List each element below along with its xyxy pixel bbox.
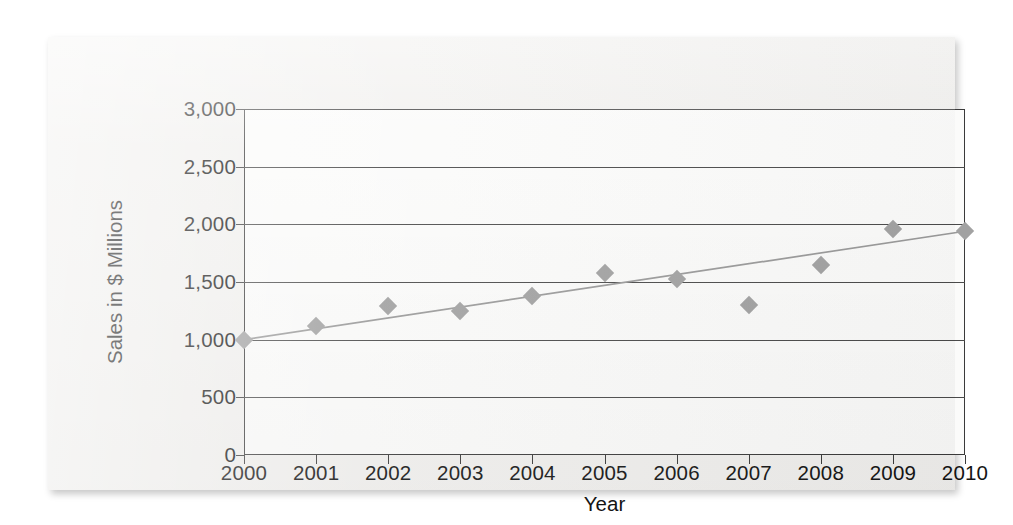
- x-axis-tick-labels: 2000200120022003200420052006200720082009…: [244, 461, 965, 491]
- screenshot-root: Sales in $ Millions 05001,0001,5002,0002…: [0, 0, 1013, 525]
- y-axis-tick-label: 2,500: [184, 155, 236, 179]
- x-axis-title: Year: [244, 492, 965, 516]
- x-axis-tick-label: 2001: [293, 461, 339, 485]
- x-axis-tick-label: 2003: [437, 461, 483, 485]
- y-axis-tick-label: 1,000: [184, 328, 236, 352]
- scanned-figure-page: Sales in $ Millions 05001,0001,5002,0002…: [48, 37, 955, 490]
- x-axis-tick-label: 2008: [798, 461, 844, 485]
- y-axis-tick-labels: 05001,0001,5002,0002,5003,000: [132, 109, 236, 455]
- y-axis-tick-label: 500: [201, 385, 236, 409]
- plot-area: [244, 109, 965, 455]
- x-axis-tick-label: 2004: [509, 461, 555, 485]
- x-axis-tick-label: 2006: [653, 461, 699, 485]
- y-axis-tick-label: 3,000: [184, 97, 236, 121]
- y-axis-tick-label: 2,000: [184, 212, 236, 236]
- data-layer: [244, 109, 965, 455]
- x-axis-tick-label: 2002: [365, 461, 411, 485]
- x-axis-tick-label: 2000: [221, 461, 267, 485]
- y-axis-tick-mark: [236, 455, 244, 456]
- x-axis-tick-label: 2007: [725, 461, 771, 485]
- y-axis-title: Sales in $ Millions: [100, 109, 130, 455]
- x-axis-tick-label: 2010: [942, 461, 988, 485]
- x-axis-tick-label: 2005: [581, 461, 627, 485]
- x-axis-tick-label: 2009: [870, 461, 916, 485]
- y-axis-title-text: Sales in $ Millions: [103, 200, 127, 364]
- y-axis-tick-label: 1,500: [184, 270, 236, 294]
